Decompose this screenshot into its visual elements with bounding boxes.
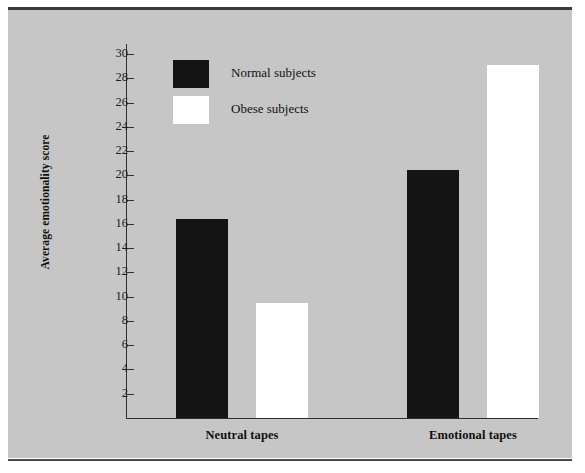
y-axis-tick-label: 12	[88, 265, 128, 278]
y-axis-tick-label: 14	[88, 241, 128, 254]
y-axis-tick-row: 8	[68, 321, 134, 322]
y-axis-tick-row: 16	[68, 224, 134, 225]
y-axis-tick-row: 10	[68, 297, 134, 298]
legend-label: Normal subjects	[231, 65, 316, 81]
y-axis-tick-label: 2	[88, 387, 128, 400]
legend-swatch-dark	[173, 60, 209, 88]
page-root: Average emotionality score 3028262422201…	[0, 0, 585, 473]
y-axis-tick-label: 20	[88, 168, 128, 181]
y-axis-tick-row: 20	[68, 175, 134, 176]
y-axis-tick-row: 6	[68, 345, 134, 346]
y-axis-tick-row: 30	[68, 54, 134, 55]
x-axis-label-emotional-tapes: Emotional tapes	[393, 428, 553, 443]
y-axis-tick-row: 2	[68, 394, 134, 395]
y-axis-tick-label: 4	[88, 362, 128, 375]
y-axis-tick-label: 8	[88, 314, 128, 327]
bottom-rule	[8, 459, 572, 461]
clipped-header-text	[10, 0, 310, 4]
bar-normal-subjects-emotional-tapes	[407, 170, 459, 418]
bar-normal-subjects-neutral-tapes	[176, 219, 228, 418]
y-axis-title: Average emotionality score	[39, 107, 51, 297]
y-axis-tick-label: 30	[88, 47, 128, 60]
y-axis-tick-row: 22	[68, 151, 134, 152]
y-axis-tick-row: 26	[68, 103, 134, 104]
y-axis-tick-row: 24	[68, 127, 134, 128]
y-axis-tick-label: 28	[88, 71, 128, 84]
x-axis-label-neutral-tapes: Neutral tapes	[162, 428, 322, 443]
bar-obese-subjects-neutral-tapes	[256, 303, 308, 418]
legend-label: Obese subjects	[231, 101, 309, 117]
figure-panel: Average emotionality score 3028262422201…	[8, 10, 572, 458]
x-axis-line	[126, 418, 538, 419]
y-axis-tick-label: 16	[88, 217, 128, 230]
y-axis-tick-label: 22	[88, 144, 128, 157]
y-axis-tick-row: 18	[68, 200, 134, 201]
y-axis-tick-label: 24	[88, 120, 128, 133]
y-axis-tick-label: 10	[88, 290, 128, 303]
y-axis-tick-label: 26	[88, 96, 128, 109]
y-axis-tick-row: 28	[68, 78, 134, 79]
y-axis-tick-label: 18	[88, 193, 128, 206]
legend-swatch-light	[173, 96, 209, 124]
y-axis-tick-row: 4	[68, 369, 134, 370]
y-axis-tick-row: 12	[68, 272, 134, 273]
y-axis-tick-label: 6	[88, 338, 128, 351]
bar-obese-subjects-emotional-tapes	[487, 65, 539, 418]
y-axis-tick-row: 14	[68, 248, 134, 249]
